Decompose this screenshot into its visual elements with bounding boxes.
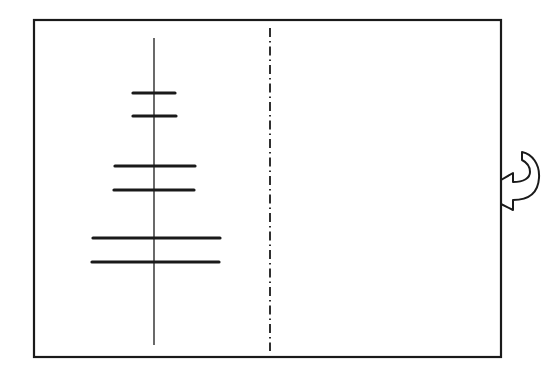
diagram-canvas [0, 0, 557, 385]
bar-group [92, 93, 220, 262]
frame-rectangle [34, 20, 501, 357]
curved-arrow-icon [501, 152, 539, 210]
